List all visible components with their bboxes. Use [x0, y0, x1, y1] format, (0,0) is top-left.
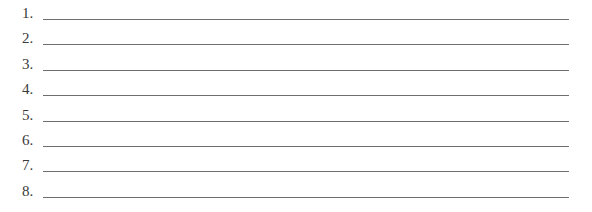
answer-blank-line	[43, 121, 569, 122]
list-item: 6.	[0, 130, 592, 150]
item-number: 4.	[22, 82, 33, 97]
answer-blank-line	[43, 44, 569, 45]
item-number: 5.	[22, 108, 33, 123]
answer-blank-line	[43, 95, 569, 96]
answer-blank-line	[43, 197, 569, 198]
list-item: 7.	[0, 155, 592, 175]
answer-blank-line	[43, 146, 569, 147]
item-number: 6.	[22, 133, 33, 148]
list-item: 1.	[0, 3, 592, 23]
item-number: 7.	[22, 158, 33, 173]
answer-blank-line	[43, 70, 569, 71]
item-number: 3.	[22, 57, 33, 72]
list-item: 3.	[0, 54, 592, 74]
item-number: 2.	[22, 31, 33, 46]
list-item: 8.	[0, 181, 592, 201]
answer-blank-line	[43, 19, 569, 20]
item-number: 8.	[22, 184, 33, 199]
list-item: 2.	[0, 28, 592, 48]
list-item: 5.	[0, 105, 592, 125]
answer-blank-line	[43, 171, 569, 172]
item-number: 1.	[22, 6, 33, 21]
list-item: 4.	[0, 79, 592, 99]
